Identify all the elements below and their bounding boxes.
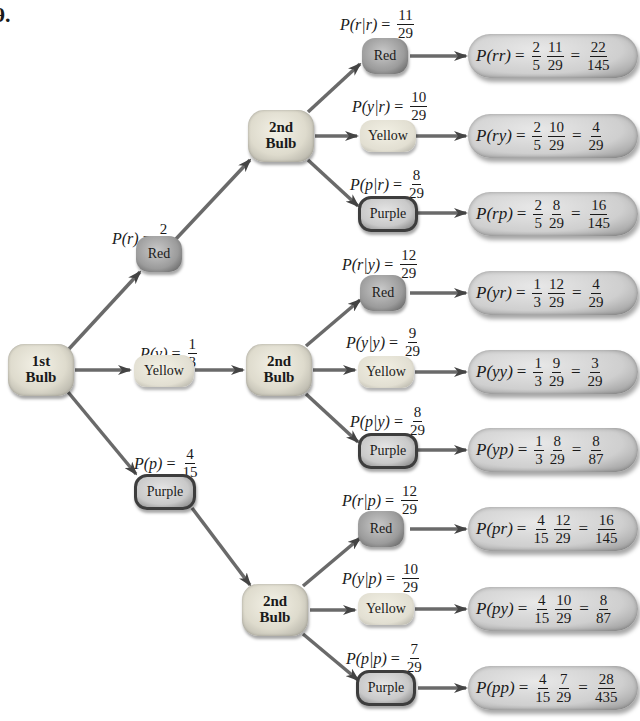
second-node-yellow: Yellow <box>360 120 416 152</box>
second-node-yellow: Yellow <box>358 356 414 388</box>
first-bulb-line1: 1st <box>26 354 57 370</box>
second-node-purple: Purple <box>358 433 418 469</box>
second-bulb-line1: 2nd <box>266 120 297 136</box>
result-pill: P(ry)= 25 1029 = 429 <box>468 114 638 158</box>
result-pill: P(yp)= 13 829 = 887 <box>468 428 638 472</box>
second-node-red: Red <box>362 38 408 74</box>
second-bulb-line1: 2nd <box>264 354 295 370</box>
result-pill: P(py)= 415 1029 = 887 <box>468 587 638 631</box>
problem-number: 9. <box>0 2 11 28</box>
result-pill: P(pr)= 415 1229 = 16145 <box>468 507 638 551</box>
second-node-purple: Purple <box>358 196 418 232</box>
cond-label: P(y|p)= 1029 <box>342 562 422 595</box>
second-node-yellow: Yellow <box>358 593 414 625</box>
second-bulb-line1: 2nd <box>260 594 291 610</box>
result-pill: P(yy)= 13 929 = 329 <box>468 350 638 394</box>
result-pill: P(rr)= 25 1129 = 22145 <box>468 34 638 78</box>
first-yellow-node: Yellow <box>134 355 194 387</box>
result-pill: P(yr)= 13 1229 = 429 <box>468 271 638 315</box>
first-bulb-node: 1stBulb <box>8 344 74 396</box>
first-purple-node: Purple <box>134 474 196 510</box>
second-bulb-node-yellow: 2ndBulb <box>246 344 312 396</box>
second-bulb-line2: Bulb <box>260 610 291 626</box>
result-pill: P(rp)= 25 829 = 16145 <box>468 192 638 236</box>
second-bulb-node-red: 2ndBulb <box>248 110 314 162</box>
result-pill: P(pp)= 415 729 = 28435 <box>468 666 638 710</box>
second-node-red: Red <box>360 275 406 311</box>
second-node-purple: Purple <box>356 670 416 706</box>
cond-label: P(r|r)= 1129 <box>340 8 417 41</box>
second-bulb-line2: Bulb <box>264 370 295 386</box>
second-bulb-line2: Bulb <box>266 136 297 152</box>
second-bulb-node-purple: 2ndBulb <box>242 584 308 636</box>
cond-label: P(y|r)= 1029 <box>352 90 430 123</box>
cond-label: P(y|y)= 929 <box>346 326 423 359</box>
second-node-red: Red <box>358 511 404 547</box>
probability-tree-diagram: 9. 1stBulb P(r)= 25 P(y)= 13 P(p)= 415 R… <box>0 0 640 721</box>
first-red-node: Red <box>136 236 182 272</box>
first-bulb-line2: Bulb <box>26 370 57 386</box>
